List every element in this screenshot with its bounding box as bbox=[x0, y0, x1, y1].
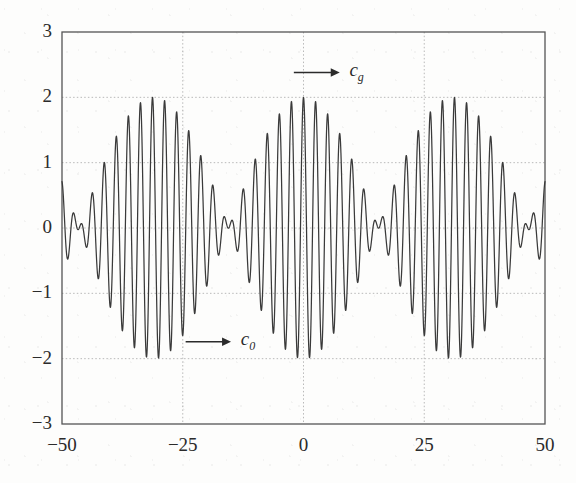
y-tick-label: 2 bbox=[14, 85, 52, 107]
y-tick-label: −2 bbox=[14, 347, 52, 369]
x-tick-label: −25 bbox=[143, 434, 223, 456]
group-velocity-arrow bbox=[294, 68, 340, 76]
y-tick-label: 0 bbox=[14, 216, 52, 238]
velocity-symbol: c bbox=[241, 328, 249, 349]
x-tick-label: 50 bbox=[505, 434, 576, 456]
y-tick-label: −1 bbox=[14, 281, 52, 303]
velocity-symbol: c bbox=[349, 59, 357, 80]
x-tick-label: −50 bbox=[22, 434, 102, 456]
y-tick-label: −3 bbox=[14, 412, 52, 434]
y-tick-label: 3 bbox=[14, 20, 52, 42]
velocity-subscript: g bbox=[358, 69, 364, 83]
plot-canvas bbox=[0, 0, 576, 483]
phase-velocity-label: c0 bbox=[241, 328, 255, 354]
phase-velocity-arrow bbox=[186, 337, 231, 345]
wave-packet-figure: 3210−1−2−3 −50−2502550 cg c0 bbox=[0, 0, 576, 483]
y-tick-label: 1 bbox=[14, 151, 52, 173]
x-tick-label: 0 bbox=[264, 434, 344, 456]
group-velocity-label: cg bbox=[349, 59, 363, 85]
velocity-subscript: 0 bbox=[249, 338, 255, 352]
x-tick-label: 25 bbox=[384, 434, 464, 456]
grid-lines bbox=[62, 32, 545, 424]
